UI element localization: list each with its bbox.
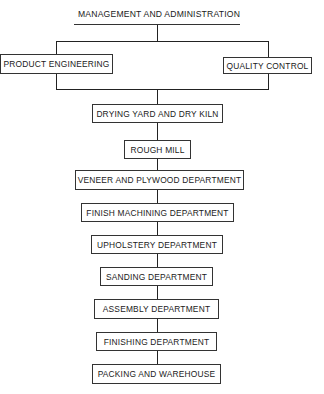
bracket-bottom bbox=[56, 89, 269, 90]
box-finishing: FINISHING DEPARTMENT bbox=[96, 332, 217, 351]
box-rough-mill: ROUGH MILL bbox=[124, 140, 191, 159]
box-quality-control: QUALITY CONTROL bbox=[223, 57, 312, 74]
box-sanding: SANDING DEPARTMENT bbox=[100, 267, 213, 286]
box-finish-machining: FINISH MACHINING DEPARTMENT bbox=[81, 203, 234, 222]
box-packing-warehouse: PACKING AND WAREHOUSE bbox=[92, 364, 221, 384]
bracket-top bbox=[56, 41, 269, 42]
management-title: MANAGEMENT AND ADMINISTRATION bbox=[75, 9, 243, 19]
box-drying-yard: DRYING YARD AND DRY KILN bbox=[92, 104, 223, 123]
box-assembly: ASSEMBLY DEPARTMENT bbox=[94, 299, 219, 319]
connector-title bbox=[157, 25, 158, 41]
box-product-engineering: PRODUCT ENGINEERING bbox=[0, 54, 113, 74]
box-upholstery: UPHOLSTERY DEPARTMENT bbox=[91, 235, 223, 254]
box-veneer-plywood: VENEER AND PLYWOOD DEPARTMENT bbox=[75, 170, 244, 190]
